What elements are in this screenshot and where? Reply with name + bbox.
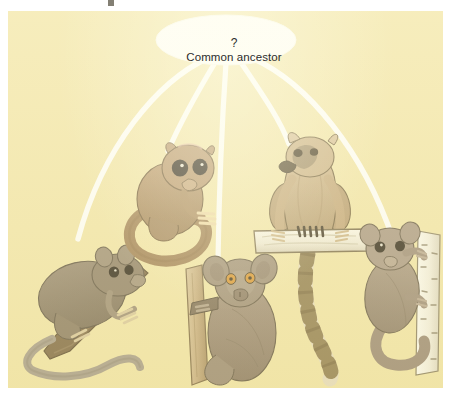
eye-left: [293, 149, 302, 157]
eye-right: [192, 159, 207, 175]
branch-line-3: [218, 63, 226, 261]
eye-left: [375, 241, 386, 252]
page-top-margin: [0, 0, 452, 9]
cropped-text-fragment: [108, 0, 114, 6]
muzzle: [234, 289, 248, 301]
ear-right: [328, 134, 338, 145]
eye-right: [310, 148, 318, 156]
eye-left: [172, 159, 188, 176]
animal-grey-lemur-on-trunk: [186, 251, 280, 385]
tail: [27, 339, 140, 376]
muzzle: [384, 256, 397, 267]
figure-illustration: ? Common ancestor: [0, 0, 452, 402]
eye-right: [395, 241, 405, 251]
illustration-panel: ? Common ancestor: [8, 11, 443, 388]
animal-brown-mouse-lemur: [129, 143, 215, 261]
ringed-tail: [305, 253, 331, 379]
radiation-tree-graphic: [8, 11, 443, 388]
branch-line-2: [168, 61, 216, 151]
animal-tarsier-on-diagonal-branch: [27, 244, 148, 377]
eye-left: [109, 266, 119, 277]
eye-right: [124, 265, 133, 275]
animal-lemur-on-white-trunk: [357, 219, 440, 375]
